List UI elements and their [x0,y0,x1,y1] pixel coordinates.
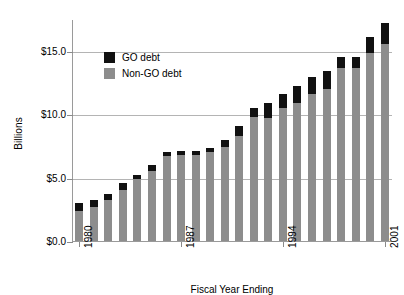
bar-1987 [177,151,185,241]
bar-2001 [381,23,389,241]
bar-1983 [119,183,127,241]
bar-1986 [163,152,171,241]
legend-item-non-go-debt: Non-GO debt [104,66,181,80]
bar-1984 [133,175,141,241]
bar-segment-non-go-debt [104,200,112,241]
bar-segment-non-go-debt [163,156,171,241]
x-tick-label-1987: 1987 [185,225,196,248]
black-square-swatch-icon [104,52,115,63]
bar-segment-non-go-debt [133,179,141,241]
bar-2000 [366,37,374,241]
x-tick-label-2001: 2001 [389,225,400,248]
bar-segment-non-go-debt [279,108,287,241]
legend-label-non-go-debt: Non-GO debt [122,68,181,79]
bar-segment-go-debt [235,126,243,136]
bar-segment-non-go-debt [352,68,360,241]
x-tick-mark-2001 [385,242,386,247]
bar-1993 [264,103,272,241]
bar-1995 [293,86,301,241]
bar-segment-non-go-debt [206,152,214,241]
bar-1992 [250,108,258,241]
bar-segment-go-debt [337,57,345,68]
bar-1991 [235,126,243,241]
bar-segment-non-go-debt [148,171,156,241]
bar-segment-non-go-debt [337,68,345,241]
bar-segment-non-go-debt [308,94,316,241]
x-axis-line [72,241,392,242]
bar-segment-non-go-debt [235,136,243,241]
bar-1990 [221,140,229,241]
x-tick-label-1980: 1980 [83,225,94,248]
bar-segment-non-go-debt [250,117,258,241]
y-tick-label-100: $10.0 [20,110,66,120]
gray-square-swatch-icon [104,68,115,79]
y-tick-mark [67,242,73,243]
bar-segment-go-debt [366,37,374,53]
bar-segment-non-go-debt [119,190,127,241]
bar-segment-non-go-debt [381,44,389,241]
bar-1996 [308,77,316,241]
bar-1989 [206,148,214,241]
bar-segment-go-debt [308,77,316,93]
y-tick-label-150: $15.0 [20,47,66,57]
bar-segment-go-debt [381,23,389,45]
bar-segment-non-go-debt [221,147,229,241]
bar-segment-go-debt [279,94,287,108]
bar-1982 [104,194,112,241]
x-tick-mark-1994 [283,242,284,247]
bar-1980 [75,203,83,241]
bar-1994 [279,94,287,241]
bar-1998 [337,57,345,241]
bar-1985 [148,165,156,241]
bar-segment-go-debt [352,57,360,68]
x-tick-mark-1980 [79,242,80,247]
x-tick-label-1994: 1994 [287,225,298,248]
y-tick-label-00: $0.0 [20,237,66,247]
legend-label-go-debt: GO debt [122,52,160,63]
bar-segment-non-go-debt [177,155,185,241]
bar-segment-go-debt [250,108,258,117]
bar-1997 [323,71,331,241]
y-axis-tick-labels: $0.0$5.0$10.0$15.0 [16,0,66,290]
bar-segment-go-debt [323,71,331,89]
bar-segment-go-debt [119,183,127,191]
bar-segment-go-debt [221,140,229,148]
bar-segment-non-go-debt [293,103,301,241]
y-tick-label-50: $5.0 [20,174,66,184]
chart-legend: GO debt Non-GO debt [104,50,181,82]
x-axis-title: Fiscal Year Ending [72,284,392,295]
bar-segment-non-go-debt [264,118,272,241]
bar-segment-non-go-debt [75,211,83,241]
x-tick-mark-1987 [181,242,182,247]
bar-segment-non-go-debt [323,89,331,241]
bar-segment-go-debt [264,103,272,118]
bar-1999 [352,57,360,241]
bar-segment-non-go-debt [366,53,374,241]
legend-item-go-debt: GO debt [104,50,181,64]
bar-segment-go-debt [293,86,301,102]
bar-segment-go-debt [75,203,83,211]
